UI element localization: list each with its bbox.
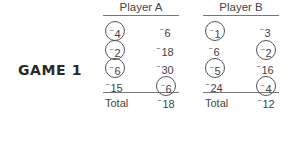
negative-sign: − bbox=[156, 45, 160, 52]
circled-score: −1 bbox=[205, 21, 225, 41]
negative-sign: − bbox=[256, 63, 260, 70]
negative-sign: − bbox=[260, 82, 264, 89]
negative-sign: − bbox=[160, 82, 164, 89]
total-label: Total bbox=[105, 97, 128, 109]
negative-sign: − bbox=[260, 46, 264, 53]
negative-sign: − bbox=[257, 97, 261, 104]
circled-score: −4 bbox=[105, 21, 125, 41]
total-value: −12 bbox=[255, 97, 277, 110]
total-label: Total bbox=[205, 97, 228, 109]
negative-sign: − bbox=[109, 27, 113, 34]
score: −6 bbox=[154, 21, 176, 39]
circled-score: −5 bbox=[205, 58, 225, 78]
negative-sign: − bbox=[109, 46, 113, 53]
score: −18 bbox=[154, 40, 176, 58]
total-value: −18 bbox=[155, 97, 177, 110]
negative-sign: − bbox=[209, 27, 213, 34]
score: −3 bbox=[254, 21, 276, 39]
negative-sign: − bbox=[109, 64, 113, 71]
negative-sign: − bbox=[159, 26, 163, 33]
negative-sign: − bbox=[157, 97, 161, 104]
player-a-header: Player A bbox=[103, 0, 179, 15]
player-b-table: Player B −1−3−6−2−5−16−24−4 Total −12 bbox=[203, 0, 279, 113]
total-row: Total −12 bbox=[203, 93, 279, 113]
negative-sign: − bbox=[259, 26, 263, 33]
circled-score: −6 bbox=[105, 58, 125, 78]
negative-sign: − bbox=[209, 64, 213, 71]
score: −30 bbox=[154, 58, 176, 76]
score-rows: −1−3−6−2−5−16−24−4 bbox=[203, 16, 279, 92]
score: −15 bbox=[103, 76, 125, 94]
score: −24 bbox=[203, 76, 225, 94]
circled-score: −2 bbox=[105, 40, 125, 60]
negative-sign: − bbox=[105, 81, 109, 88]
negative-sign: − bbox=[205, 81, 209, 88]
score: −16 bbox=[254, 58, 276, 76]
game-label: GAME 1 bbox=[18, 62, 82, 78]
circled-score: −2 bbox=[256, 40, 276, 60]
player-a-table: Player A −4−6−2−18−6−30−15−6 Total −18 bbox=[103, 0, 179, 113]
score: −6 bbox=[203, 40, 225, 58]
score-rows: −4−6−2−18−6−30−15−6 bbox=[103, 16, 179, 92]
total-row: Total −18 bbox=[103, 93, 179, 113]
negative-sign: − bbox=[156, 63, 160, 70]
player-b-header: Player B bbox=[203, 0, 279, 15]
negative-sign: − bbox=[208, 45, 212, 52]
